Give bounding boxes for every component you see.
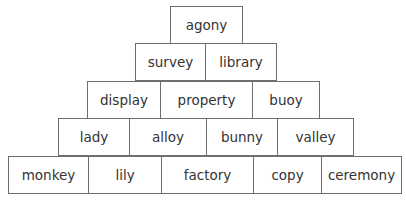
- word-label: ceremony: [328, 167, 395, 183]
- word-label: agony: [186, 17, 228, 33]
- word-label: buoy: [269, 92, 302, 108]
- word-label: lady: [80, 129, 109, 145]
- word-box-agony: agony: [170, 6, 243, 44]
- word-label: library: [219, 54, 262, 70]
- word-box-buoy: buoy: [252, 81, 320, 119]
- word-label: bunny: [221, 129, 263, 145]
- word-box-ceremony: ceremony: [321, 156, 402, 194]
- word-label: valley: [295, 129, 335, 145]
- word-label: property: [178, 92, 236, 108]
- word-label: display: [100, 92, 148, 108]
- word-box-valley: valley: [277, 118, 354, 156]
- word-box-lily: lily: [88, 156, 162, 194]
- word-label: survey: [148, 54, 193, 70]
- word-box-copy: copy: [253, 156, 322, 194]
- word-box-lady: lady: [58, 118, 130, 156]
- word-label: monkey: [22, 167, 76, 183]
- word-box-display: display: [87, 81, 161, 119]
- word-label: lily: [115, 167, 134, 183]
- word-box-bunny: bunny: [206, 118, 278, 156]
- word-label: copy: [271, 167, 303, 183]
- word-label: alloy: [152, 129, 184, 145]
- word-box-alloy: alloy: [129, 118, 207, 156]
- word-box-library: library: [205, 43, 277, 81]
- word-box-survey: survey: [135, 43, 206, 81]
- word-box-factory: factory: [161, 156, 254, 194]
- word-label: factory: [184, 167, 232, 183]
- word-box-monkey: monkey: [8, 156, 89, 194]
- word-box-property: property: [160, 81, 253, 119]
